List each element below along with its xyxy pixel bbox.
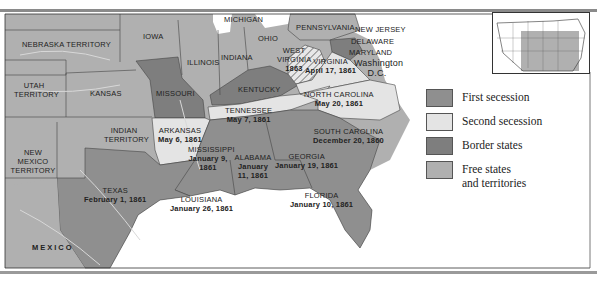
label-missouri: MISSOURI xyxy=(156,89,195,98)
label-maryland: MARYLAND xyxy=(349,48,392,57)
label-iowa: IOWA xyxy=(143,32,164,41)
swatch-border-states xyxy=(426,137,453,155)
label-indiana: INDIANA xyxy=(221,53,253,62)
legend-item-second-secession: Second secession xyxy=(426,113,542,131)
label-delaware: DELAWARE xyxy=(351,37,394,46)
label-washington-dc: Washington D.C. xyxy=(354,58,400,78)
label-virginia: VIRGINIAApril 17, 1861 xyxy=(305,57,356,75)
label-indian-territory: INDIAN TERRITORY xyxy=(104,126,144,144)
label-north-carolina: NORTH CAROLINAMay 20, 1861 xyxy=(304,90,374,108)
label-pennsylvania: PENNSYLVANIA xyxy=(296,23,355,32)
label-texas: TEXASFebruary 1, 1861 xyxy=(84,186,146,204)
us-locator-inset xyxy=(492,12,590,74)
label-new-mexico: NEW MEXICO TERRITORY xyxy=(8,148,58,175)
label-kentucky: KENTUCKY xyxy=(238,85,280,94)
legend-item-free-states: Free statesand territories xyxy=(426,161,542,190)
label-mexico: MEXICO xyxy=(32,243,74,252)
label-michigan: MICHIGAN xyxy=(224,15,263,24)
label-arkansas: ARKANSASMay 6, 1861 xyxy=(158,126,202,144)
label-nebraska: NEBRASKA TERRITORY xyxy=(22,40,111,49)
legend-item-border-states: Border states xyxy=(426,137,542,155)
swatch-free-states xyxy=(426,161,453,179)
bottom-rule xyxy=(0,271,597,274)
swatch-first-secession xyxy=(426,89,453,107)
label-mississippi: MISSISSIPPIJanuary 9, 1861 xyxy=(188,145,228,172)
label-south-carolina: SOUTH CAROLINADecember 20, 1860 xyxy=(313,127,384,145)
label-new-jersey: NEW JERSEY xyxy=(355,25,406,34)
label-kansas: KANSAS xyxy=(90,89,122,98)
swatch-second-secession xyxy=(426,113,453,131)
label-alabama: ALABAMAJanuary 11, 1861 xyxy=(233,153,273,180)
label-ohio: OHIO xyxy=(258,34,278,43)
label-georgia: GEORGIAJanuary 19, 1861 xyxy=(275,152,338,170)
label-florida: FLORIDAJanuary 10, 1861 xyxy=(290,191,353,209)
label-louisiana: LOUISIANAJanuary 26, 1861 xyxy=(170,195,233,213)
legend-item-first-secession: First secession xyxy=(426,89,542,107)
label-tennessee: TENNESSEEMay 7, 1861 xyxy=(225,106,272,124)
map-legend: First secession Second secession Border … xyxy=(426,89,542,196)
label-illinois: ILLINOIS xyxy=(187,58,219,67)
label-utah: UTAH TERRITORY xyxy=(14,81,54,99)
